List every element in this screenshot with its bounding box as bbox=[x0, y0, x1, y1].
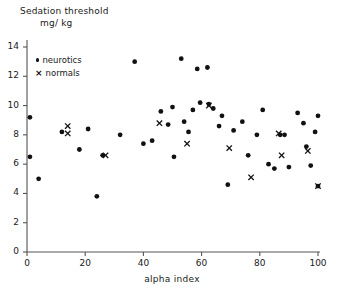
data-point-neurotic bbox=[246, 153, 251, 158]
data-point-neurotic bbox=[118, 132, 123, 137]
data-point-neurotic bbox=[141, 141, 146, 146]
data-point-neurotic bbox=[28, 154, 33, 159]
data-point-normal bbox=[184, 141, 189, 146]
data-point-neurotic bbox=[231, 128, 236, 133]
data-point-neurotic bbox=[77, 147, 82, 152]
axis-lines bbox=[27, 40, 320, 252]
data-point-neurotic bbox=[28, 115, 33, 120]
data-point-neurotic bbox=[211, 106, 216, 111]
data-point-neurotic bbox=[295, 110, 300, 115]
data-point-neurotic bbox=[198, 100, 203, 105]
data-point-neurotic bbox=[287, 165, 292, 170]
data-point-neurotic bbox=[308, 163, 313, 168]
data-point-normal bbox=[65, 131, 70, 136]
data-point-normal bbox=[248, 175, 253, 180]
data-point-neurotic bbox=[313, 130, 318, 135]
data-point-neurotic bbox=[170, 105, 175, 110]
data-point-neurotic bbox=[172, 154, 177, 159]
data-point-neurotic bbox=[272, 166, 277, 171]
series-neurotics-markers bbox=[28, 56, 321, 198]
data-point-neurotic bbox=[301, 121, 306, 126]
data-point-neurotic bbox=[158, 109, 163, 114]
data-point-neurotic bbox=[132, 59, 137, 64]
plot-canvas bbox=[0, 0, 344, 293]
data-point-neurotic bbox=[240, 119, 245, 124]
data-point-normal bbox=[227, 145, 232, 150]
data-point-neurotic bbox=[304, 144, 309, 149]
data-point-neurotic bbox=[266, 162, 271, 167]
data-point-neurotic bbox=[150, 138, 155, 143]
data-point-neurotic bbox=[225, 182, 230, 187]
series-normals-markers bbox=[65, 103, 321, 189]
data-point-neurotic bbox=[220, 113, 225, 118]
axis-tick-marks bbox=[23, 47, 318, 256]
data-point-neurotic bbox=[190, 108, 195, 113]
data-point-neurotic bbox=[182, 119, 187, 124]
data-point-neurotic bbox=[179, 56, 184, 61]
scatter-plot-figure: Sedation threshold mg/ kg neurotics × no… bbox=[0, 0, 344, 293]
data-point-neurotic bbox=[217, 124, 222, 129]
data-point-neurotic bbox=[60, 130, 65, 135]
data-point-neurotic bbox=[316, 113, 321, 118]
data-point-neurotic bbox=[282, 132, 287, 137]
data-point-neurotic bbox=[195, 67, 200, 72]
data-point-normal bbox=[157, 120, 162, 125]
data-point-neurotic bbox=[205, 65, 210, 70]
data-point-neurotic bbox=[86, 127, 91, 132]
data-point-normal bbox=[279, 153, 284, 158]
data-point-normal bbox=[305, 148, 310, 153]
data-point-neurotic bbox=[94, 194, 99, 199]
data-point-neurotic bbox=[166, 122, 171, 127]
data-point-neurotic bbox=[36, 176, 41, 181]
data-point-neurotic bbox=[254, 132, 259, 137]
data-point-normal bbox=[65, 123, 70, 128]
data-point-neurotic bbox=[186, 130, 191, 135]
data-point-neurotic bbox=[260, 108, 265, 113]
